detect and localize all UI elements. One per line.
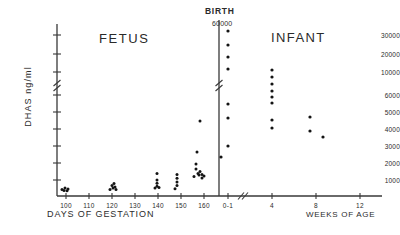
x-tick-label: 160 [192,202,216,209]
peak-value-label: 60000 [212,20,232,27]
x-tick-label: 100 [54,202,78,209]
panel-title-fetus: FETUS [99,32,150,45]
x-tick-label: 150 [169,202,193,209]
x-tick-label: 140 [146,202,170,209]
x-axis-title-infant: WEEKS OF AGE [306,211,375,219]
y-axis-title: DHAS ng/ml [24,62,33,132]
panel-title-infant: INFANT [271,31,326,44]
x-tick-label: 120 [100,202,124,209]
x-tick-label: 12 [348,202,372,209]
x-tick-label: 8 [304,202,328,209]
x-tick-label: 110 [77,202,101,209]
x-tick-label-layer: 100 110 120 130 140 150 160 0-1 4 8 12 [0,0,400,235]
birth-label: BIRTH [205,7,234,16]
x-tick-label: 130 [123,202,147,209]
x-axis-title-fetus: DAYS OF GESTATION [47,210,154,219]
x-tick-label: 4 [260,202,284,209]
x-tick-label: 0-1 [216,202,240,209]
